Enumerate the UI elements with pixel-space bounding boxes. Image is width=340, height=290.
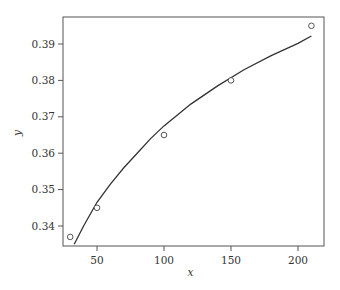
chart: 501001502000.340.350.360.370.380.39xy bbox=[0, 0, 340, 290]
data-point bbox=[94, 205, 100, 211]
chart-svg: 501001502000.340.350.360.370.380.39xy bbox=[0, 0, 340, 290]
x-axis-label: x bbox=[188, 266, 194, 278]
x-tick-label: 200 bbox=[288, 254, 308, 266]
y-tick-label: 0.39 bbox=[32, 38, 55, 50]
x-tick-label: 100 bbox=[154, 254, 174, 266]
data-point bbox=[67, 234, 73, 240]
data-point bbox=[161, 132, 167, 138]
y-tick-label: 0.37 bbox=[32, 110, 55, 122]
data-point bbox=[309, 23, 315, 29]
y-tick-label: 0.34 bbox=[32, 220, 56, 232]
plot-frame bbox=[63, 17, 324, 246]
fitted-curve bbox=[74, 36, 311, 244]
y-axis-label: y bbox=[11, 129, 23, 137]
y-tick-label: 0.38 bbox=[32, 74, 55, 86]
y-tick-label: 0.36 bbox=[32, 147, 56, 159]
x-tick-label: 150 bbox=[221, 254, 241, 266]
y-tick-label: 0.35 bbox=[32, 183, 55, 195]
x-tick-label: 50 bbox=[90, 254, 103, 266]
data-point bbox=[228, 78, 234, 84]
